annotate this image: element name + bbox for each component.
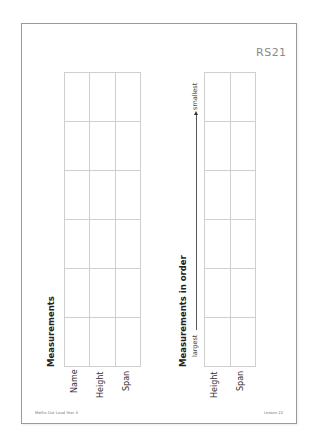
table-cell[interactable]: [115, 269, 140, 318]
ordered-column-label-span: Span: [237, 371, 245, 391]
table-cell[interactable]: [90, 73, 115, 122]
table-cell[interactable]: [65, 73, 90, 122]
table-row: [65, 220, 141, 269]
table-row: [205, 73, 256, 122]
table-cell[interactable]: [115, 318, 140, 367]
table-row: [205, 269, 256, 318]
table-row: [205, 122, 256, 171]
table-cell[interactable]: [230, 318, 256, 367]
table-cell[interactable]: [115, 73, 140, 122]
table-cell[interactable]: [90, 220, 115, 269]
table-cell[interactable]: [205, 220, 231, 269]
table-cell[interactable]: [205, 318, 231, 367]
column-label-name: Name: [71, 369, 79, 393]
table-cell[interactable]: [205, 171, 231, 220]
table-cell[interactable]: [90, 318, 115, 367]
table-cell[interactable]: [90, 171, 115, 220]
order-arrow-line: [196, 114, 197, 330]
largest-label: largest: [192, 335, 199, 357]
table-cell[interactable]: [115, 171, 140, 220]
table-cell[interactable]: [65, 171, 90, 220]
smallest-label: smallest: [192, 83, 199, 110]
table-row: [65, 318, 141, 367]
column-label-height: Height: [97, 372, 105, 398]
table-row: [65, 122, 141, 171]
table-cell[interactable]: [230, 171, 256, 220]
table-cell[interactable]: [90, 122, 115, 171]
measurements-heading: Measurements: [47, 296, 56, 367]
table-row: [205, 171, 256, 220]
table-cell[interactable]: [65, 220, 90, 269]
resource-code: RS21: [256, 46, 287, 59]
footer-lesson: Lesson 22: [264, 410, 283, 415]
ordered-heading: Measurements in order: [179, 255, 188, 367]
table-cell[interactable]: [115, 122, 140, 171]
table-cell[interactable]: [205, 269, 231, 318]
table-cell[interactable]: [230, 269, 256, 318]
table-row: [65, 269, 141, 318]
column-label-span: Span: [123, 371, 131, 391]
table-cell[interactable]: [65, 269, 90, 318]
table-cell[interactable]: [230, 220, 256, 269]
table-cell[interactable]: [205, 73, 231, 122]
table-row: [65, 73, 141, 122]
table-cell[interactable]: [230, 73, 256, 122]
ordered-table: [204, 72, 256, 367]
ordered-column-label-height: Height: [211, 372, 219, 398]
table-cell[interactable]: [65, 122, 90, 171]
table-row: [205, 318, 256, 367]
table-row: [65, 171, 141, 220]
footer-series: Maths Out Loud Year 3: [35, 410, 78, 415]
table-cell[interactable]: [115, 220, 140, 269]
table-cell[interactable]: [230, 122, 256, 171]
table-cell[interactable]: [90, 269, 115, 318]
table-cell[interactable]: [205, 122, 231, 171]
arrow-up-icon: [194, 111, 198, 115]
table-cell[interactable]: [65, 318, 90, 367]
table-row: [205, 220, 256, 269]
measurements-table: [64, 72, 141, 367]
